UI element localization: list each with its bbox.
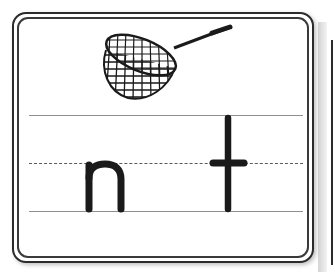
letters (0, 0, 335, 275)
letter-t (213, 118, 244, 209)
letter-n (89, 164, 121, 209)
